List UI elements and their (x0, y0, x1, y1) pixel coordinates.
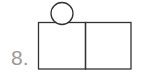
left-square (39, 23, 86, 70)
right-square (86, 23, 132, 70)
figure (0, 0, 142, 74)
top-circle (51, 3, 73, 25)
